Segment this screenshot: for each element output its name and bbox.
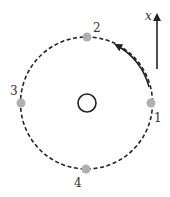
point-3-label: 3 — [10, 84, 18, 98]
orbit-diagram: x 1 2 3 4 — [0, 0, 170, 197]
point-3 — [17, 99, 26, 108]
point-4 — [82, 165, 91, 174]
center-object — [78, 94, 96, 112]
rotation-arrow-icon — [116, 45, 149, 87]
point-1 — [147, 99, 156, 108]
point-2-label: 2 — [93, 21, 101, 35]
point-2 — [83, 33, 92, 42]
x-axis-label: x — [145, 9, 152, 23]
point-4-label: 4 — [74, 176, 82, 190]
point-1-label: 1 — [154, 111, 162, 125]
